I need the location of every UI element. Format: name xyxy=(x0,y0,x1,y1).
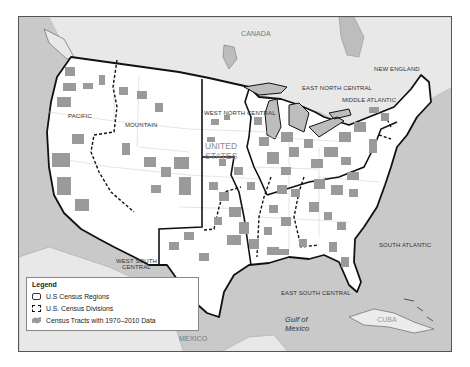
legend-title: Legend xyxy=(32,281,193,288)
dashed-outline-icon xyxy=(32,305,41,312)
gray-patch-icon xyxy=(32,317,41,324)
label-mexico: MEXICO xyxy=(179,335,207,342)
legend-item-divisions: U.S. Census Divisions xyxy=(32,302,193,314)
label-canada: CANADA xyxy=(241,30,271,37)
label-gulf-of-mexico: Gulf of Mexico xyxy=(285,315,309,333)
label-east-north-central: EAST NORTH CENTRAL xyxy=(302,85,372,91)
legend-item-tracts: Census Tracts with 1970–2010 Data xyxy=(32,314,193,326)
legend-label: Census Tracts with 1970–2010 Data xyxy=(46,317,156,324)
legend-label: U.S Census Regions xyxy=(46,293,109,300)
label-east-south-central: EAST SOUTH CENTRAL xyxy=(281,290,351,296)
label-pacific: PACIFIC xyxy=(68,113,92,119)
label-mountain: MOUNTAIN xyxy=(125,122,157,128)
label-united-states: UNITED STATES xyxy=(205,141,237,161)
legend-item-regions: U.S Census Regions xyxy=(32,290,193,302)
label-new-england: NEW ENGLAND xyxy=(374,66,420,72)
label-middle-atlantic: MIDDLE ATLANTIC xyxy=(342,97,396,103)
label-cuba: CUBA xyxy=(377,316,397,323)
label-west-north-central: WEST NORTH CENTRAL xyxy=(204,110,276,116)
label-south-atlantic: SOUTH ATLANTIC xyxy=(379,242,431,248)
legend-label: U.S. Census Divisions xyxy=(46,305,113,312)
label-west-south-central: WEST SOUTH CENTRAL xyxy=(116,258,157,270)
map-legend: Legend U.S Census Regions U.S. Census Di… xyxy=(26,277,199,331)
solid-outline-icon xyxy=(32,293,41,300)
